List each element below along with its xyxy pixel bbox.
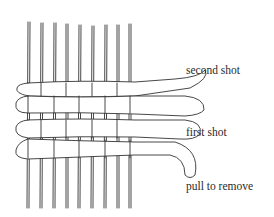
label-pull-to-remove: pull to remove bbox=[186, 180, 253, 192]
weaving-diagram: second shot first shot pull to remove bbox=[0, 0, 274, 217]
label-first-shot: first shot bbox=[186, 126, 227, 138]
weft-shots bbox=[16, 70, 206, 178]
warp-threads bbox=[27, 22, 131, 208]
label-second-shot: second shot bbox=[186, 64, 240, 76]
